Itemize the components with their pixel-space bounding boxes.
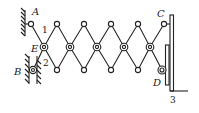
label-link-2: 2 (43, 58, 49, 68)
label-c: C (157, 8, 165, 19)
label-a: A (31, 6, 39, 17)
center-pivots (40, 43, 154, 51)
plate-3 (166, 15, 189, 91)
label-e: E (30, 43, 39, 54)
pivot-pins (28, 21, 166, 74)
scissor-mechanism-diagram: A B C D E 1 2 3 (0, 0, 199, 113)
label-part-3: 3 (170, 95, 176, 105)
label-b: B (13, 66, 21, 77)
label-d: D (152, 77, 161, 88)
label-link-1: 1 (42, 25, 48, 35)
